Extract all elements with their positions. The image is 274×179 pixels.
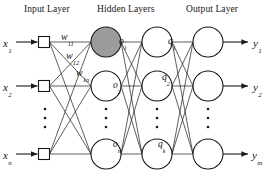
hidden1-o1-label: o1 bbox=[119, 30, 127, 49]
output-y1 bbox=[193, 27, 223, 57]
hidden2-q1-label: q1 bbox=[168, 30, 176, 49]
hidden1-o1 bbox=[91, 27, 121, 57]
hidden2-qk-label: qk bbox=[158, 133, 165, 152]
output-y1-label: y1 bbox=[253, 33, 261, 53]
output-layer-header: Output Layer bbox=[186, 4, 238, 14]
ellipsis-input bbox=[44, 126, 47, 129]
ellipsis-hidden2 bbox=[156, 108, 159, 111]
input-x2 bbox=[39, 81, 50, 92]
hidden2-q2-label: q2 bbox=[162, 66, 170, 85]
ellipsis-input bbox=[44, 117, 47, 120]
hidden1-o2-label: o2 bbox=[113, 74, 121, 93]
ellipsis-hidden1 bbox=[105, 126, 108, 129]
output-y2 bbox=[193, 71, 223, 101]
input-x1 bbox=[39, 37, 50, 48]
ellipsis-hidden1 bbox=[105, 117, 108, 120]
ellipsis-hidden1 bbox=[105, 108, 108, 111]
ellipsis-hidden2 bbox=[156, 117, 159, 120]
ellipsis-hidden2 bbox=[156, 126, 159, 129]
ellipsis-input bbox=[44, 108, 47, 111]
output-ym-label: ym bbox=[252, 145, 262, 165]
input-xn-label: xn bbox=[3, 145, 11, 165]
ellipsis-output bbox=[207, 126, 210, 129]
weight-w1n-label: w1n bbox=[76, 62, 89, 81]
hidden-layers-header: Hidden Layers bbox=[97, 4, 155, 14]
hidden2-qk bbox=[142, 139, 172, 169]
input-x1-label: x1 bbox=[3, 33, 11, 53]
input-xn bbox=[39, 149, 50, 160]
output-y2-label: y2 bbox=[253, 77, 261, 97]
hidden1-on-label: on bbox=[113, 133, 121, 152]
input-layer-header: Input Layer bbox=[24, 4, 70, 14]
ellipsis-output bbox=[207, 117, 210, 120]
ellipsis-output bbox=[207, 108, 210, 111]
input-x2-label: x2 bbox=[3, 77, 11, 97]
output-ym bbox=[193, 139, 223, 169]
network-graphics bbox=[0, 0, 274, 179]
neural-network-diagram: Input Layer Hidden Layers Output Layer x… bbox=[0, 0, 274, 179]
weight-w11-label: w11 bbox=[61, 26, 74, 45]
